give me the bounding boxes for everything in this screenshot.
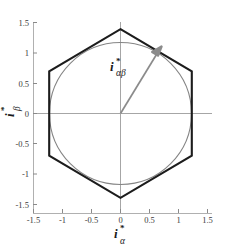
current-vector-arrow — [121, 47, 162, 114]
x-axis-label-base: i — [114, 226, 118, 241]
y-axis-label-base: i — [2, 113, 17, 117]
x-tick-label: 1.5 — [202, 215, 213, 225]
x-axis-label: i * α — [114, 223, 126, 246]
y-axis-label-subscript: β — [12, 106, 22, 112]
plot-canvas: -1.5 -1 -0.5 0 0.5 1 1.5 1.5 1 0.5 0 -0.… — [0, 0, 237, 252]
vector-label-base: i — [110, 59, 114, 74]
x-tick-label: -1 — [59, 215, 66, 225]
y-tick-label: 0.5 — [18, 79, 29, 89]
x-axis-label-superscript: * — [120, 223, 125, 233]
y-tick-label: -1.5 — [16, 200, 29, 210]
vector-shaft — [121, 55, 157, 114]
y-tick-label: 1 — [25, 48, 29, 58]
y-tick-label: -1 — [22, 169, 29, 179]
y-tick-labels: 1.5 1 0.5 0 -0.5 -1 -1.5 — [16, 18, 29, 210]
x-tick-label: -0.5 — [85, 215, 98, 225]
vector-label-subscript: αβ — [116, 68, 126, 78]
y-tick-label: 1.5 — [18, 18, 29, 28]
x-tick-label: -1.5 — [27, 215, 40, 225]
x-tick-label: 0.5 — [144, 215, 155, 225]
y-axis-label: i * β — [0, 106, 22, 117]
y-tick-label: 0 — [25, 109, 29, 119]
vector-label-superscript: * — [116, 56, 121, 66]
y-tick-label: -0.5 — [16, 139, 29, 149]
y-axis-label-superscript: * — [0, 106, 9, 111]
x-tick-label: 1 — [176, 215, 180, 225]
plot-figure: -1.5 -1 -0.5 0 0.5 1 1.5 1.5 1 0.5 0 -0.… — [0, 0, 237, 252]
x-axis-label-subscript: α — [120, 236, 126, 246]
vector-label: i * αβ — [110, 56, 126, 78]
x-tick-marks — [34, 209, 208, 213]
